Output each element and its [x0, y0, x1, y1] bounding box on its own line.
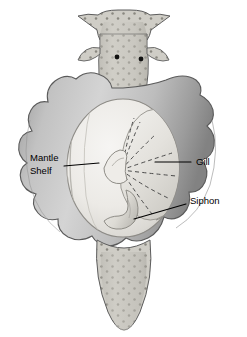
label-siphon-text: Siphon: [190, 195, 220, 206]
mollusc-diagram: Mantle Shelf Gill Siphon: [0, 0, 247, 337]
anatomy-figure: Mantle Shelf Gill Siphon: [0, 0, 247, 337]
right-eye-icon: [139, 57, 144, 62]
left-eye-icon: [115, 55, 120, 60]
label-mantle-shelf-line1: Mantle: [30, 152, 59, 163]
label-mantle-shelf-line2: Shelf: [30, 165, 52, 176]
label-gill-text: Gill: [196, 156, 210, 167]
